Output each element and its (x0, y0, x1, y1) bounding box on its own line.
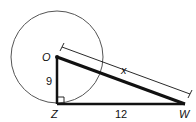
geometry-diagram: O 9 Z 12 W x (0, 0, 196, 122)
label-ow: x (120, 64, 127, 76)
label-o: O (42, 51, 51, 63)
center-point (55, 55, 59, 59)
dimension-tick-start (60, 43, 64, 51)
label-oz: 9 (46, 75, 52, 87)
label-z: Z (50, 108, 59, 120)
label-w: W (179, 108, 191, 120)
label-zw: 12 (115, 108, 127, 120)
dimension-tick-end (188, 90, 192, 98)
